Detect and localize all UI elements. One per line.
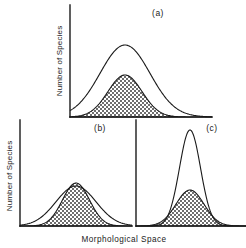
panel-b bbox=[20, 120, 132, 226]
panels-group bbox=[20, 5, 246, 226]
panel-c bbox=[136, 120, 246, 226]
panel-b-y-axis-title: Number of Species bbox=[5, 141, 14, 212]
panel-a bbox=[70, 5, 212, 117]
panel-label-b: (b) bbox=[94, 123, 106, 133]
panel-label-a: (a) bbox=[152, 8, 164, 18]
panel-label-c: (c) bbox=[206, 123, 217, 133]
panel-a-shaded-curve bbox=[70, 75, 212, 117]
panel-a-y-axis-title: Number of Species bbox=[55, 26, 64, 97]
x-axis-title: Morphological Space bbox=[81, 235, 166, 244]
figure-svg: (a)Number of Species(b)Number of Species… bbox=[0, 0, 246, 248]
figure-container: (a)Number of Species(b)Number of Species… bbox=[0, 0, 246, 248]
panel-c-shaded-curve bbox=[136, 190, 246, 226]
